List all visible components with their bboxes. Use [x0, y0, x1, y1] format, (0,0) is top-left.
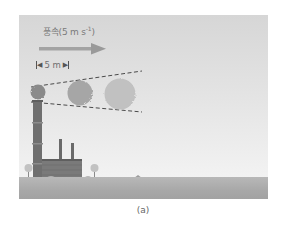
smokestack-icon [32, 100, 43, 179]
factory-building-icon [42, 139, 82, 182]
plume-illustration [19, 15, 268, 199]
figure-caption: (a) [0, 205, 286, 215]
puff-2-icon [68, 81, 93, 106]
ground [19, 177, 268, 199]
puff-1-icon [31, 85, 46, 100]
diagram-scene: 풍속(5 m s-1) ◀ 5 m ▶ [19, 15, 268, 199]
puff-3-icon [105, 79, 136, 110]
